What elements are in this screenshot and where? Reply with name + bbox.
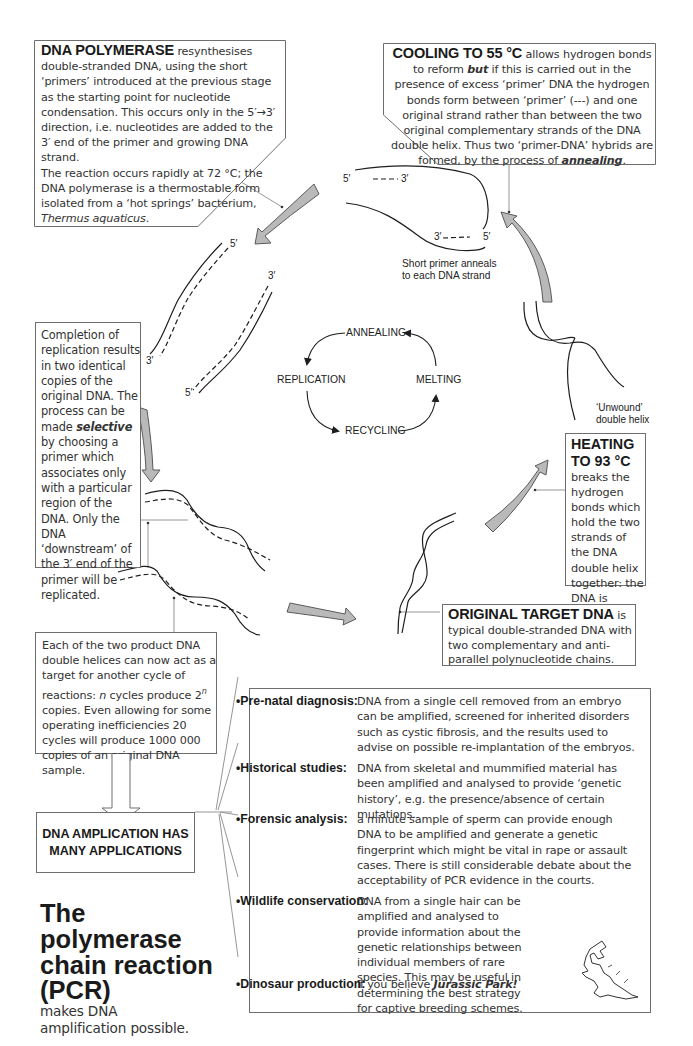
page-title: The polymerase chain reaction (PCR) make… bbox=[40, 900, 230, 1037]
label-3prime: 3′ bbox=[401, 173, 408, 184]
cooling-box: COOLING TO 55 °C allows hydrogen bonds t… bbox=[383, 43, 656, 165]
completion-emph: selective bbox=[76, 420, 132, 434]
label-5prime: 5′ bbox=[230, 238, 237, 249]
heating-box: HEATING TO 93 °C breaks the hydrogen bon… bbox=[565, 433, 646, 586]
label-3prime: 3′ bbox=[268, 270, 275, 281]
applications-box: •Pre-natal diagnosis: DNA from a single … bbox=[249, 688, 651, 1013]
unwound-caption: ‘Unwound’ double helix bbox=[596, 402, 649, 426]
application-label: •Pre-natal diagnosis: bbox=[236, 694, 358, 708]
arrow-to-heating bbox=[485, 460, 548, 532]
application-desc: DNA from a single cell removed from an e… bbox=[357, 694, 640, 755]
product-text-b: cycles produce 2 bbox=[106, 688, 202, 701]
label-5prime: 5′ bbox=[185, 387, 192, 398]
product-text-c: copies. Even allowing for some operating… bbox=[42, 704, 211, 778]
jurassic-park-emph: Jurassic Park! bbox=[434, 978, 518, 991]
cycle-recycling: RECYCLING bbox=[345, 425, 406, 436]
application-label: •Historical studies: bbox=[236, 761, 347, 775]
cooling-end: . bbox=[622, 154, 625, 167]
label-3prime: 3′ bbox=[434, 231, 441, 242]
polymerase-species: Thermus aquaticus bbox=[41, 212, 146, 225]
completion-text-b: by choosing a primer which associates on… bbox=[41, 435, 133, 602]
amplification-box: DNA AMPLICATION HAS MANY APPLICATIONS bbox=[36, 812, 195, 873]
cooling-emph: but bbox=[467, 63, 488, 76]
amplification-line-1: DNA AMPLICATION HAS bbox=[42, 826, 188, 843]
application-desc: DNA from a single hair can be amplified … bbox=[357, 894, 532, 1016]
original-heading: ORIGINAL TARGET DNA bbox=[448, 606, 614, 622]
completion-box: Completion of replication results in two… bbox=[35, 322, 141, 568]
application-label: •Forensic analysis: bbox=[236, 812, 348, 826]
cooling-heading: COOLING TO 55 °C bbox=[393, 45, 523, 61]
primer-strands bbox=[120, 179, 470, 620]
title-line-3: (PCR) bbox=[40, 978, 230, 1003]
polymerase-box: DNA POLYMERASE resynthesises double-stra… bbox=[34, 40, 286, 227]
primer-caption: Short primer anneals to each DNA strand bbox=[402, 258, 497, 281]
cooling-text-b: if this is carried out in the presence o… bbox=[391, 63, 653, 167]
heating-heading-1: HEATING bbox=[571, 436, 645, 453]
polymerase-text: resynthesises double-stranded DNA, using… bbox=[41, 45, 275, 164]
heating-text: breaks the hydrogen bonds which hold the… bbox=[571, 471, 643, 620]
application-desc: a minute sample of sperm can provide eno… bbox=[357, 812, 640, 888]
dinosaur-icon bbox=[576, 937, 646, 1007]
arrow-recycling bbox=[287, 603, 356, 625]
title-line-1: The polymerase bbox=[40, 900, 230, 952]
original-dna-box: ORIGINAL TARGET DNA is typical double-st… bbox=[442, 604, 636, 666]
cycle-annealing: ANNEALING bbox=[346, 327, 406, 338]
primer-caption-1: Short primer anneals bbox=[402, 258, 497, 270]
label-5prime: 5′ bbox=[483, 231, 490, 242]
page-subtitle: makes DNA amplification possible. bbox=[40, 1003, 205, 1037]
application-desc: if you believe bbox=[357, 978, 434, 991]
application-label: •Dinosaur production: bbox=[236, 977, 365, 991]
cycle-melting: MELTING bbox=[416, 374, 461, 385]
application-label: •Wildlife conservation: bbox=[236, 894, 368, 908]
polymerase-text-2: The reaction occurs rapidly at 72 °C; th… bbox=[41, 167, 262, 210]
label-3prime: 3′ bbox=[146, 355, 153, 366]
primer-caption-2: to each DNA strand bbox=[402, 270, 497, 282]
unwound-caption-2: double helix bbox=[596, 414, 649, 426]
title-line-2: chain reaction bbox=[40, 952, 230, 978]
heating-heading-2: TO 93 °C bbox=[571, 453, 645, 470]
unwound-caption-1: ‘Unwound’ bbox=[596, 402, 649, 414]
process-arrows bbox=[138, 184, 552, 625]
amplification-line-2: MANY APPLICATIONS bbox=[49, 843, 182, 860]
cooling-term: annealing bbox=[562, 154, 623, 167]
dna-strands bbox=[118, 166, 624, 635]
polymerase-heading: DNA POLYMERASE bbox=[41, 42, 174, 58]
polymerase-species-end: . bbox=[146, 212, 149, 225]
completion-text-a: Completion of replication results in two… bbox=[41, 328, 140, 434]
product-sup: n bbox=[202, 687, 207, 696]
cycle-replication: REPLICATION bbox=[277, 374, 346, 385]
product-box: Each of the two product DNA double helic… bbox=[35, 632, 217, 754]
arrow-to-annealing bbox=[501, 212, 552, 302]
label-5prime: 5′ bbox=[343, 173, 350, 184]
